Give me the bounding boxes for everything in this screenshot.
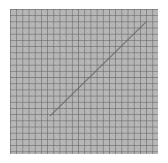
diagonal-line — [0, 0, 168, 163]
